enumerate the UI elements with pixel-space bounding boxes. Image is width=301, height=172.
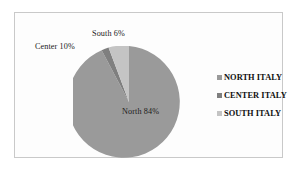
legend-swatch-square-icon — [217, 93, 222, 98]
data-label-center: Center 10% — [35, 42, 75, 51]
chart-frame: South 6% Center 10% North 84% NORTH ITAL… — [14, 12, 283, 158]
legend-item-south-italy[interactable]: SOUTH ITALY — [217, 109, 287, 118]
chart-canvas: South 6% Center 10% North 84% NORTH ITAL… — [0, 0, 301, 172]
legend-swatch-square-icon — [217, 111, 222, 116]
legend-item-label: CENTER ITALY — [224, 91, 287, 100]
pie-chart-plot-area — [73, 46, 185, 158]
chart-legend: NORTH ITALY CENTER ITALY SOUTH ITALY — [217, 73, 287, 118]
legend-item-north-italy[interactable]: NORTH ITALY — [217, 73, 287, 82]
pie-chart-svg — [73, 46, 185, 158]
legend-item-center-italy[interactable]: CENTER ITALY — [217, 91, 287, 100]
data-label-north: North 84% — [122, 107, 159, 116]
legend-item-label: SOUTH ITALY — [224, 109, 281, 118]
legend-item-label: NORTH ITALY — [224, 73, 282, 82]
data-label-south: South 6% — [92, 29, 125, 38]
legend-swatch-square-icon — [217, 75, 222, 80]
